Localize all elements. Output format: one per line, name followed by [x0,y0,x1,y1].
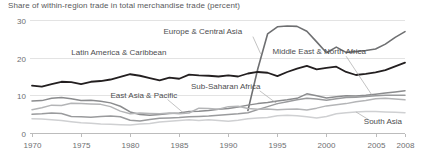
x-tick-label: 1990 [220,141,238,150]
line-chart-plot: 0102030 Europe & Central AsiaLatin Ameri… [0,0,426,159]
x-tick-label: 1985 [171,141,189,150]
y-tick-label: 20 [17,55,26,64]
y-tick-label: 10 [17,92,26,101]
series-label-europe-central-asia: Europe & Central Asia [163,27,242,36]
x-tick-label: 2005 [368,141,386,150]
x-tick-label: 2000 [318,141,336,150]
series-label-middle-east-north-africa: Middle East & North Africa [273,47,367,56]
y-tick-label: 0 [22,130,27,139]
series-label-sub-saharan-africa: Sub-Saharan Africa [191,82,261,91]
y-tick-label: 30 [17,17,26,26]
x-tick-label: 1980 [122,141,140,150]
middle-east-leader [346,56,372,94]
chart-figure: Share of within-region trade in total me… [0,0,426,159]
series-label-east-asia-pacific: East Asia & Pacific [111,91,178,100]
x-axis-tick-labels: 197019751980198519901995200020052008 [24,141,415,150]
x-tick-label: 1995 [269,141,287,150]
europe-leader [253,37,261,54]
series-label-south-asia: South Asia [364,117,403,126]
series-line-south-asia [32,112,405,126]
east-asia-leader [168,100,184,113]
y-axis-tick-labels: 0102030 [17,17,26,139]
x-axis-group [30,134,406,137]
x-tick-label: 1975 [73,141,91,150]
series-lines-group [32,26,405,125]
series-line-sub-saharan-africa [32,95,405,121]
x-tick-label: 2008 [397,141,415,150]
series-label-latin-america-caribbean: Latin America & Caribbean [71,48,166,57]
x-tick-label: 1970 [24,141,42,150]
